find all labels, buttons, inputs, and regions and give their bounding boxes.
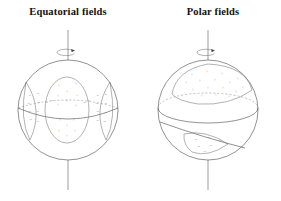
rotation-arrowhead-icon (71, 49, 75, 52)
negative-sign: − (105, 110, 108, 115)
negative-sign: − (96, 101, 99, 106)
positive-sign: + (242, 85, 245, 90)
positive-sign: + (221, 71, 224, 76)
positive-sign: + (201, 93, 204, 98)
positive-sign: + (66, 89, 69, 94)
negative-sign: − (37, 109, 40, 114)
panel-polar: ++++++++++++++++ −−−−−− (158, 30, 258, 190)
negative-sign: − (38, 100, 41, 105)
negative-sign: − (97, 109, 100, 114)
positive-sign: + (76, 93, 79, 98)
positive-sign: + (207, 85, 210, 90)
negative-sign: − (51, 98, 54, 103)
positive-sign: + (229, 80, 232, 85)
positive-sign: + (73, 117, 76, 122)
sphere-outline (18, 60, 118, 160)
negative-sign: − (105, 101, 108, 106)
positive-sign: + (66, 123, 69, 128)
negative-sign: − (210, 143, 213, 148)
positive-sign: + (75, 103, 78, 108)
negative-sign-group-right: −−−−−−−− (96, 92, 108, 124)
positive-sign: + (58, 83, 61, 88)
negative-sign: − (46, 100, 49, 105)
rotation-arrowhead-icon (211, 49, 215, 52)
positive-sign: + (228, 94, 231, 99)
positive-sign: + (75, 81, 78, 86)
positive-sign: + (66, 98, 69, 103)
positive-sign: + (57, 93, 60, 98)
negative-sign: − (29, 93, 32, 98)
positive-sign: + (237, 76, 240, 81)
negative-sign: − (29, 109, 32, 114)
negative-sign: − (105, 92, 108, 97)
negative-sign: − (219, 138, 222, 143)
positive-sign: + (199, 78, 202, 83)
positive-sign: + (215, 92, 218, 97)
positive-sign-group: ++++++++++++++ (57, 81, 79, 138)
positive-sign: + (214, 77, 217, 82)
positive-sign: + (206, 69, 209, 74)
positive-sign: + (192, 87, 195, 92)
panel-equatorial: ++++++++++++++ −−−−−−−− −−−−−−−− −−−− (18, 30, 118, 190)
negative-sign: − (37, 91, 40, 96)
negative-sign-group-left: −−−−−−−− (28, 91, 41, 124)
sphere-diagram-canvas: ++++++++++++++ −−−−−−−− −−−−−−−− −−−− ++… (0, 0, 281, 201)
negative-sign: − (97, 118, 100, 123)
positive-sign: + (74, 128, 77, 133)
equator-line (18, 108, 118, 119)
negative-sign: − (28, 101, 31, 106)
positive-sign: + (222, 85, 225, 90)
positive-sign: + (59, 117, 62, 122)
negative-sign: − (198, 144, 201, 149)
negative-sign: − (30, 117, 33, 122)
negative-sign: − (37, 119, 40, 124)
negative-sign: − (195, 137, 198, 142)
tilted-neutral-line (160, 122, 245, 148)
positive-sign: + (58, 128, 61, 133)
positive-sign: + (185, 80, 188, 85)
negative-sign: − (84, 100, 87, 105)
negative-sign: − (208, 135, 211, 140)
positive-sign-group: ++++++++++++++++ (185, 69, 245, 99)
negative-sign: − (88, 98, 91, 103)
negative-sign: − (104, 119, 107, 124)
positive-sign: + (191, 72, 194, 77)
positive-sign: + (57, 102, 60, 107)
positive-sign: + (235, 89, 238, 94)
equator-line (158, 108, 258, 123)
negative-sign: − (97, 93, 100, 98)
figure-root: Equatorial fields Polar fields +++++++++… (0, 0, 281, 201)
negative-sign: − (204, 149, 207, 154)
positive-sign: + (66, 133, 69, 138)
